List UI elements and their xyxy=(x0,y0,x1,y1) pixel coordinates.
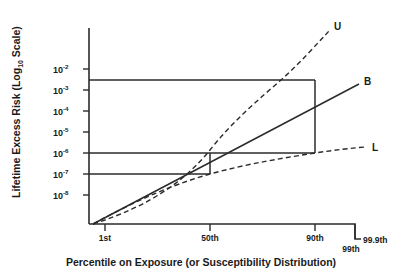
x-axis-title: Percentile on Exposure (or Susceptibilit… xyxy=(66,256,336,268)
y-axis-tick-labels: 10-2 10-3 10-4 10-5 10-6 10-7 10-8 xyxy=(53,63,69,201)
y-tick-label-4: 10-5 xyxy=(53,126,69,138)
y-tick-label-2: 10-3 xyxy=(53,84,69,96)
svg-text:Lifetime Excess Risk (Log10 Sc: Lifetime Excess Risk (Log10 Scale) xyxy=(10,26,24,198)
x-tick-label-99th: 99th xyxy=(342,244,359,254)
y-axis-title: Lifetime Excess Risk (Log10 Scale) xyxy=(10,26,24,198)
y-tick-label-6: 10-7 xyxy=(53,168,69,180)
x-tick-label-50th: 50th xyxy=(201,233,218,243)
risk-percentile-chart: Lifetime Excess Risk (Log10 Scale) 10-2 … xyxy=(0,0,403,271)
x-tick-label-90th: 90th xyxy=(306,233,323,243)
y-tick-label-1: 10-2 xyxy=(53,63,69,75)
series-label-B: B xyxy=(364,76,371,87)
series-label-L: L xyxy=(372,142,378,153)
series-label-U: U xyxy=(334,21,341,32)
y-axis-title-subscript: 10 xyxy=(17,60,24,68)
series-curve-L xyxy=(93,147,366,224)
y-tick-label-5: 10-6 xyxy=(53,147,69,159)
x-tick-label-99-9th: 99.9th xyxy=(363,235,388,245)
y-axis-title-tail: Scale) xyxy=(10,26,22,60)
series-labels: U B L xyxy=(334,21,378,153)
y-axis-title-main: Lifetime Excess Risk (Log xyxy=(10,68,22,198)
y-axis-ticks xyxy=(83,69,89,195)
chart-svg: Lifetime Excess Risk (Log10 Scale) 10-2 … xyxy=(0,0,403,271)
x-axis-tick-labels: 1st 50th 90th 99th 99.9th xyxy=(99,233,388,254)
y-tick-label-7: 10-8 xyxy=(53,189,69,201)
series-curve-U xyxy=(93,31,329,224)
x-tick-label-1st: 1st xyxy=(99,233,111,243)
error-bars xyxy=(210,80,315,174)
y-tick-label-3: 10-4 xyxy=(53,105,69,117)
